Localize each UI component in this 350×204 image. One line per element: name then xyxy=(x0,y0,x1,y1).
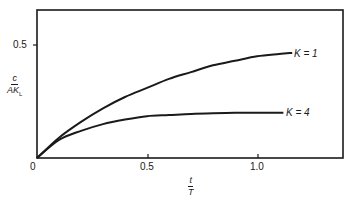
curve-k4 xyxy=(37,113,283,158)
x-axis-label-numerator: t xyxy=(188,176,193,187)
curve-k1 xyxy=(37,53,292,158)
series-label-k4: K = 4 xyxy=(286,108,310,118)
plot-frame xyxy=(37,10,343,158)
y-axis-label-numerator: c xyxy=(11,74,18,85)
origin-label: 0 xyxy=(30,162,36,172)
y-axis-label-denominator: AKL xyxy=(7,85,22,99)
x-tick-label-0.5: 0.5 xyxy=(140,162,154,172)
y-axis-label: c AKL xyxy=(7,74,22,99)
x-tick-label-1.0: 1.0 xyxy=(250,162,264,172)
chart-canvas xyxy=(0,0,350,204)
y-axis-label-den-sub: L xyxy=(19,91,22,97)
x-axis-label: t T xyxy=(188,176,194,197)
series-label-k1: K = 1 xyxy=(294,49,318,59)
y-tick-label: 0.5 xyxy=(13,40,27,50)
y-axis-label-den-main: AK xyxy=(7,85,19,95)
x-axis-label-denominator: T xyxy=(188,187,194,197)
